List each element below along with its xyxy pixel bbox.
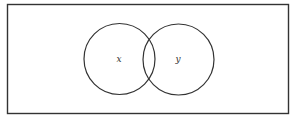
set-y-label: y xyxy=(174,54,181,64)
set-x-label: x xyxy=(116,54,121,64)
venn-diagram: x y xyxy=(0,0,295,120)
universe-rectangle xyxy=(8,5,289,114)
